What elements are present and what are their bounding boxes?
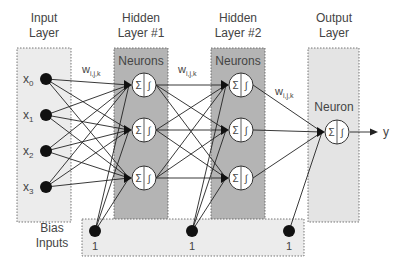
input-node-x2 [40,145,52,157]
input-node-x0 [40,73,52,85]
neuron-h2-2: Σ ∫ [229,118,253,142]
sum-icon: Σ [135,80,141,91]
bias-title-2: Inputs [36,236,69,250]
bias-node-3 [283,225,295,237]
bias-value-1: 1 [92,240,98,252]
neuron-h1-1: Σ ∫ [132,73,156,97]
neuron-h1-2: Σ ∫ [132,118,156,142]
sum-icon: Σ [135,173,141,184]
output-layer-title-2: Layer [319,26,349,40]
hidden-layer-2-title: Hidden [219,11,257,25]
bias-title: Bias [40,221,63,235]
sum-icon: Σ [135,125,141,136]
neuron-h2-3: Σ ∫ [229,166,253,190]
bias-node-2 [186,225,198,237]
output-label-y: y [383,125,389,139]
sum-icon: Σ [232,173,238,184]
sum-icon: Σ [232,125,238,136]
input-node-x3 [40,181,52,193]
hidden-layer-1-title-2: Layer #1 [118,26,165,40]
bias-value-2: 1 [189,240,195,252]
neuron-h2-1: Σ ∫ [229,73,253,97]
weight-label-3: wi,j,k [274,85,294,100]
weight-label-1: wi,j,k [81,63,101,78]
sum-icon: Σ [232,80,238,91]
neuron-h1-3: Σ ∫ [132,166,156,190]
output-layer-title: Output [316,11,353,25]
input-node-x1 [40,109,52,121]
weight-label-2: wi,j,k [177,63,197,78]
hidden-layer-1-title: Hidden [122,11,160,25]
bias-node-1 [89,225,101,237]
bias-value-3: 1 [286,240,292,252]
input-layer-title-2: Layer [29,26,59,40]
output-layer-header: Neuron [314,100,353,114]
neural-network-diagram: Input Layer Hidden Layer #1 Hidden Layer… [0,0,408,268]
hidden-layer-2-header: Neurons [215,54,260,68]
hidden-layer-2-title-2: Layer #2 [215,26,262,40]
neuron-output: Σ ∫ [325,120,349,144]
sum-icon: Σ [328,127,334,138]
output-arrowhead [370,129,378,136]
input-layer-title: Input [31,11,58,25]
hidden-layer-1-header: Neurons [118,54,163,68]
